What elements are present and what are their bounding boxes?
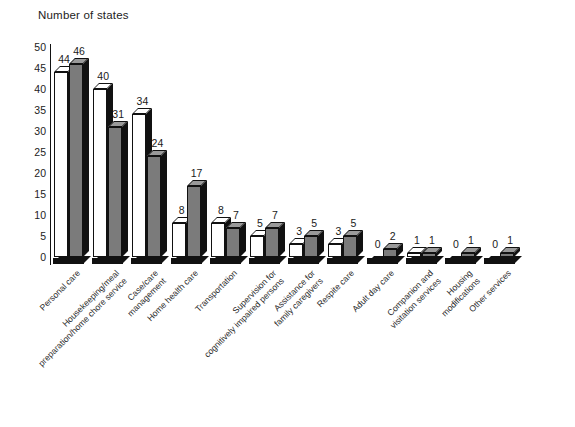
bar-front-face — [407, 253, 421, 257]
bar-series-1-3 — [172, 223, 186, 257]
bar-front-face — [211, 223, 225, 257]
bar-front-face — [304, 236, 318, 257]
bar-front-face — [147, 156, 161, 257]
bar-series-2-6 — [304, 236, 318, 257]
bar-series-1-0 — [54, 72, 68, 257]
y-axis-tick-40: 40 — [24, 83, 46, 95]
bar-front-face — [187, 186, 201, 257]
bar-series-2-0 — [69, 64, 83, 257]
bar-base-top — [131, 256, 169, 263]
bar-series-2-5 — [265, 228, 279, 257]
bar-series-1-4 — [211, 223, 225, 257]
y-axis-tick-50: 50 — [24, 41, 46, 53]
bar-value-label: 46 — [73, 45, 85, 57]
bar-front-face — [172, 223, 186, 257]
bar-front-face — [54, 72, 68, 257]
bar-value-label: 1 — [507, 234, 513, 246]
bar-value-label: 5 — [257, 217, 263, 229]
bar-series-1-7 — [328, 244, 342, 257]
bar-group: 01 — [446, 0, 481, 427]
bar-front-face — [500, 253, 514, 257]
plot-area: 50454035302520151050 4446403134248178757… — [0, 0, 575, 427]
bar-series-1-5 — [250, 236, 264, 257]
y-axis-tick-20: 20 — [24, 167, 46, 179]
bar-base-top — [327, 256, 365, 263]
bar-front-face — [289, 244, 303, 257]
bar-base-top — [406, 256, 444, 263]
bar-series-2-7 — [343, 236, 357, 257]
y-axis-tick-45: 45 — [24, 62, 46, 74]
bar-front-face — [132, 114, 146, 257]
bar-front-face — [226, 228, 240, 257]
bar-series-2-11 — [500, 253, 514, 257]
bar-value-label: 1 — [468, 234, 474, 246]
bar-base-top — [92, 256, 130, 263]
bar-series-1-2 — [132, 114, 146, 257]
bar-value-label: 3 — [335, 225, 341, 237]
y-axis-tick-5: 5 — [24, 230, 46, 242]
bar-value-label: 0 — [492, 238, 498, 250]
bar-base-top — [445, 256, 483, 263]
bar-front-face — [93, 89, 107, 257]
bar-side-face — [201, 180, 207, 257]
bar-value-label: 7 — [233, 209, 239, 221]
bar-side-face — [83, 58, 89, 257]
x-axis-line — [50, 257, 51, 265]
bar-value-label: 31 — [112, 108, 124, 120]
bar-value-label: 2 — [390, 230, 396, 242]
bar-front-face — [461, 253, 475, 257]
bar-value-label: 1 — [429, 234, 435, 246]
bar-front-face — [69, 64, 83, 257]
bar-base-top — [288, 256, 326, 263]
bar-base-top — [367, 256, 405, 263]
bar-value-label: 3 — [296, 225, 302, 237]
bar-series-1-9 — [407, 253, 421, 257]
bar-base-top — [53, 256, 91, 263]
y-axis-tick-30: 30 — [24, 125, 46, 137]
chart-page: Number of states 50454035302520151050 44… — [0, 0, 575, 427]
bar-base-top — [484, 256, 522, 263]
y-axis-tick-10: 10 — [24, 209, 46, 221]
bar-value-label: 1 — [414, 234, 420, 246]
bar-side-face — [161, 150, 167, 257]
bar-front-face — [422, 253, 436, 257]
bar-base-top — [249, 256, 287, 263]
bar-value-label: 5 — [350, 217, 356, 229]
bar-value-label: 40 — [97, 70, 109, 82]
bar-value-label: 0 — [453, 238, 459, 250]
bar-side-face — [122, 121, 128, 257]
bar-front-face — [108, 127, 122, 257]
bar-series-2-9 — [422, 253, 436, 257]
bar-value-label: 0 — [375, 238, 381, 250]
y-axis-tick-15: 15 — [24, 188, 46, 200]
y-axis-line — [50, 44, 51, 258]
y-axis-tick-25: 25 — [24, 146, 46, 158]
bar-front-face — [383, 249, 397, 257]
bar-series-2-1 — [108, 127, 122, 257]
bar-front-face — [250, 236, 264, 257]
bar-base-top — [210, 256, 248, 263]
bar-value-label: 34 — [137, 95, 149, 107]
bar-front-face — [265, 228, 279, 257]
bar-group: 01 — [485, 0, 520, 427]
bar-value-label: 8 — [179, 204, 185, 216]
bar-series-1-1 — [93, 89, 107, 257]
bar-value-label: 24 — [152, 137, 164, 149]
bar-front-face — [343, 236, 357, 257]
bar-base-top — [171, 256, 209, 263]
bar-series-2-4 — [226, 228, 240, 257]
y-axis-tick-0: 0 — [24, 251, 46, 263]
bar-series-2-8 — [383, 249, 397, 257]
bar-value-label: 17 — [191, 167, 203, 179]
bar-series-2-2 — [147, 156, 161, 257]
bar-series-2-3 — [187, 186, 201, 257]
bar-series-1-6 — [289, 244, 303, 257]
bar-front-face — [328, 244, 342, 257]
bar-value-label: 7 — [272, 209, 278, 221]
y-axis-tick-35: 35 — [24, 104, 46, 116]
bar-value-label: 5 — [311, 217, 317, 229]
bar-value-label: 8 — [218, 204, 224, 216]
bar-series-2-10 — [461, 253, 475, 257]
